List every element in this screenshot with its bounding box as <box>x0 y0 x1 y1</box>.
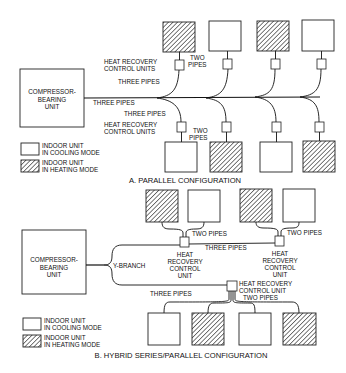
label-two-pipes-bottom-1: TWO <box>193 127 208 134</box>
legend-heating-swatch <box>21 160 39 172</box>
label-hr-2-line2: RECOVERY <box>262 257 298 264</box>
compressor-label-line3: UNIT <box>47 271 62 278</box>
compressor-label-line1: COMPRESSOR- <box>28 88 76 95</box>
legend-cooling-swatch <box>21 143 39 155</box>
bottom-branches-a <box>157 97 335 172</box>
main-pipe-a <box>84 97 320 98</box>
indoor-unit-heating <box>257 21 289 51</box>
hr-unit-top-4 <box>317 59 326 69</box>
compressor-label-line1: COMPRESSOR- <box>30 256 78 263</box>
label-y-branch: Y-BRANCH <box>113 262 146 269</box>
legend-cooling-swatch <box>23 318 41 330</box>
label-hr-2-line4: UNIT <box>273 271 288 278</box>
label-hr-top-1: HEAT RECOVERY <box>104 58 158 65</box>
indoor-unit-heating <box>240 189 272 222</box>
legend-heating-swatch <box>23 335 41 347</box>
legend-heating-label-1: INDOOR UNIT <box>44 334 86 341</box>
label-three-pipes-upper: THREE PIPES <box>205 244 247 251</box>
hybrid-configuration: COMPRESSOR- BEARING UNIT <box>22 189 322 360</box>
indoor-unit-heating <box>283 313 316 345</box>
indoor-unit-cooling <box>302 20 334 51</box>
label-hr-3-line2: CONTROL UNIT <box>239 287 286 294</box>
label-hr-2-line1: HEAT <box>272 250 288 257</box>
label-two-pipes-top-2: PIPES <box>188 61 207 68</box>
label-three-pipes-top: THREE PIPES <box>118 78 160 85</box>
indoor-unit-heating <box>192 313 224 345</box>
legend-heating-label-2: IN HEATING MODE <box>42 166 98 173</box>
hr-unit-bottom-2 <box>222 122 231 132</box>
label-three-pipes-bottom: THREE PIPES <box>124 110 166 117</box>
hr-unit-bottom-1 <box>177 122 186 132</box>
caption-b: B. HYBRID SERIES/PARALLEL CONFIGURATION <box>95 351 268 360</box>
label-hr-bottom-2: CONTROL UNITS <box>104 128 155 135</box>
indoor-unit-cooling <box>260 142 292 172</box>
hr-unit-1 <box>180 237 189 247</box>
legend-cooling-label-1: INDOOR UNIT <box>42 142 84 149</box>
hr-unit-top-3 <box>271 59 280 69</box>
compressor-unit-a: COMPRESSOR- BEARING UNIT <box>20 69 84 127</box>
legend-cooling-label-2: IN COOLING MODE <box>44 324 102 331</box>
indoor-unit-heating <box>303 141 335 172</box>
label-two-pipes-1: TWO PIPES <box>192 230 227 237</box>
caption-a: A. PARALLEL CONFIGURATION <box>129 176 241 185</box>
compressor-unit-b: COMPRESSOR- BEARING UNIT <box>22 230 86 294</box>
label-hr-bottom-1: HEAT RECOVERY <box>104 121 158 128</box>
label-two-pipes-2: TWO PIPES <box>287 229 322 236</box>
hr-unit-2 <box>275 236 284 246</box>
label-three-pipes-lower: THREE PIPES <box>150 290 192 297</box>
indoor-unit-cooling <box>239 313 271 345</box>
label-two-pipes-bottom-2: PIPES <box>189 134 208 141</box>
top-pipes-b <box>162 222 299 237</box>
legend-cooling-label-1: INDOOR UNIT <box>44 317 86 324</box>
hr-unit-top-2 <box>223 59 232 69</box>
indoor-unit-cooling <box>165 142 197 172</box>
compressor-label-line2: BEARING <box>38 96 66 103</box>
label-hr-1-line1: HEAT <box>177 251 193 258</box>
hr-unit-top-1 <box>175 60 184 70</box>
legend-b: INDOOR UNIT IN COOLING MODE INDOOR UNIT … <box>23 317 102 348</box>
label-hr-2-line3: CONTROL <box>265 264 296 271</box>
compressor-label-line2: BEARING <box>40 264 68 271</box>
compressor-label-line3: UNIT <box>45 103 60 110</box>
top-branches-a <box>157 20 334 98</box>
hr-unit-bottom-3 <box>272 122 281 132</box>
label-hr-1-line3: CONTROL <box>170 265 201 272</box>
legend-heating-label-1: INDOOR UNIT <box>42 159 84 166</box>
indoor-unit-cooling <box>283 189 315 222</box>
indoor-unit-heating <box>210 142 242 172</box>
indoor-unit-cooling <box>209 21 241 51</box>
label-hr-1-line4: UNIT <box>178 272 193 279</box>
legend-cooling-label-2: IN COOLING MODE <box>42 149 100 156</box>
hr-unit-bottom-4 <box>315 122 324 132</box>
hr-unit-3 <box>227 281 237 291</box>
hvac-configuration-diagram: COMPRESSOR- BEARING UNIT <box>0 0 346 373</box>
label-two-pipes-3: TWO PIPES <box>243 294 278 301</box>
legend-a: INDOOR UNIT IN COOLING MODE INDOOR UNIT … <box>21 142 100 173</box>
parallel-configuration: COMPRESSOR- BEARING UNIT <box>20 20 335 185</box>
indoor-unit-cooling <box>148 313 180 345</box>
label-hr-1-line2: RECOVERY <box>167 258 203 265</box>
legend-heating-label-2: IN HEATING MODE <box>44 341 100 348</box>
indoor-unit-heating <box>146 190 178 222</box>
label-hr-3-line1: HEAT RECOVERY <box>239 280 293 287</box>
label-three-pipes-main: THREE PIPES <box>93 99 135 106</box>
label-two-pipes-top-1: TWO <box>190 54 205 61</box>
label-hr-top-2: CONTROL UNITS <box>104 65 155 72</box>
indoor-unit-cooling <box>188 190 220 222</box>
indoor-unit-heating <box>163 22 195 52</box>
